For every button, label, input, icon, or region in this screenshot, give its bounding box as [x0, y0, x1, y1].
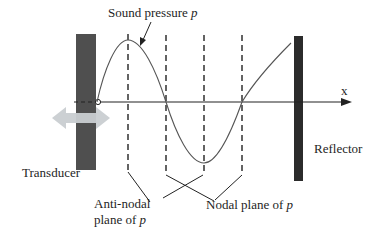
sound-pressure-text: Sound pressure [108, 5, 191, 20]
antinodal-plane-label: Anti-nodal plane of p [94, 197, 150, 227]
antinodal-label-line1: Anti-nodal [94, 197, 150, 211]
sound-pressure-pointer-arrowhead-icon [140, 37, 146, 46]
antinodal-label-line2: plane of p [94, 213, 150, 227]
reflector-label: Reflector [314, 142, 362, 156]
transducer-label: Transducer [22, 166, 80, 180]
antinodal-label-symbol: p [139, 212, 146, 227]
sound-pressure-pointer-line [143, 22, 151, 40]
transducer-bar [76, 34, 96, 170]
x-axis-arrowhead-icon [341, 98, 352, 106]
nodal-plane-label: Nodal plane of p [206, 198, 293, 212]
antinodal-label-text: plane of [94, 212, 139, 227]
nodal-label-symbol: p [287, 197, 294, 212]
standing-wave-diagram: Sound pressure p x Transducer Reflector … [0, 0, 381, 242]
leader-antinodal-2 [163, 175, 203, 198]
x-axis-label: x [341, 84, 348, 98]
reflector-bar [294, 36, 303, 181]
diagram-graphics [0, 0, 381, 242]
sound-pressure-label: Sound pressure p [108, 6, 198, 20]
nodal-label-text: Nodal plane of [206, 197, 287, 212]
origin-marker [95, 99, 100, 104]
sound-pressure-symbol: p [191, 5, 198, 20]
